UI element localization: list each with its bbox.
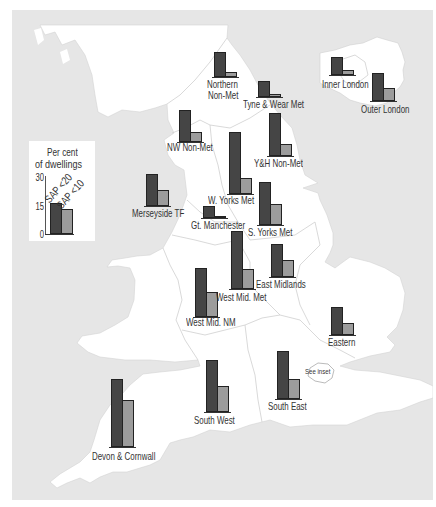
bar-sap-lt10 bbox=[342, 323, 354, 335]
bar-sap-lt10 bbox=[288, 379, 300, 399]
label-devon-cornwall: Devon & Cornwall bbox=[92, 450, 155, 462]
label-south-east: South East bbox=[268, 400, 307, 412]
label-merseyside-tf: Merseyside TF bbox=[132, 207, 184, 219]
label-west-mid-met: West Mid. Met bbox=[216, 291, 266, 303]
legend-tick-30: 30 bbox=[30, 171, 44, 183]
legend-title-line2: of dwellings bbox=[35, 158, 82, 170]
legend-y-axis bbox=[45, 176, 46, 234]
label-south-west: South West bbox=[194, 414, 235, 426]
bar-sap-lt10 bbox=[240, 178, 252, 194]
label-yh-non-met: Y&H Non-Met bbox=[254, 157, 303, 169]
bar-sap-lt10 bbox=[280, 144, 292, 156]
bar-baseline bbox=[229, 289, 256, 290]
bar-sap-lt10 bbox=[157, 190, 169, 206]
bar-baseline bbox=[370, 101, 397, 102]
bar-sap-lt10 bbox=[383, 88, 395, 101]
bar-sap-lt10 bbox=[122, 400, 134, 447]
bar-baseline bbox=[204, 412, 231, 413]
legend-x-axis bbox=[45, 234, 74, 235]
label-outer-london: Outer London bbox=[361, 103, 409, 115]
label-west-mid-nm: West Mid. NM bbox=[186, 316, 236, 328]
label-gt-manchester: Gt. Manchester bbox=[191, 219, 245, 231]
label-see-inset: See inset bbox=[305, 367, 330, 376]
label-tyne-wear-met: Tyne & Wear Met bbox=[243, 98, 304, 110]
legend-tick-15: 15 bbox=[30, 200, 44, 212]
legend-title-line1: Per cent bbox=[47, 146, 78, 158]
label-s-yorks-met: S. Yorks Met bbox=[248, 226, 292, 238]
label-eastern: Eastern bbox=[328, 336, 355, 348]
label-inner-london: Inner London bbox=[322, 78, 369, 90]
label-northern-line2: Non-Met bbox=[208, 89, 238, 101]
label-w-yorks-met: W. Yorks Met bbox=[208, 194, 254, 206]
bar-sap-lt10 bbox=[242, 269, 254, 289]
bar-sap-lt10 bbox=[217, 386, 229, 412]
bar-baseline bbox=[329, 75, 356, 76]
bar-baseline bbox=[109, 447, 136, 448]
bar-sap-lt10 bbox=[270, 204, 282, 225]
bar-sap-lt10 bbox=[282, 260, 294, 277]
legend-bar-sap-lt10 bbox=[61, 209, 73, 234]
label-east-midlands: East Midlands bbox=[256, 278, 306, 290]
legend-tick-0: 0 bbox=[30, 228, 44, 240]
label-nw-non-met: NW Non-Met bbox=[167, 141, 213, 153]
